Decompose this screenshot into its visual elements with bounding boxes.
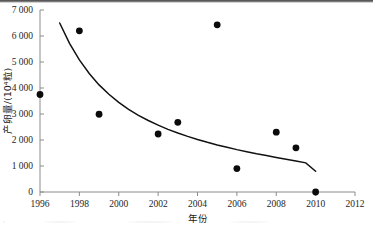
x-tick-label: 2006 bbox=[227, 199, 246, 209]
y-axis: 01 0002 0003 0004 0005 0006 0007 000 bbox=[12, 5, 44, 197]
x-axis-ticks bbox=[40, 192, 355, 196]
y-tick-label: 5 000 bbox=[12, 57, 34, 67]
fit-curve-group bbox=[60, 23, 316, 171]
chart-figure: 01 0002 0003 0004 0005 0006 0007 000 199… bbox=[0, 0, 373, 226]
y-axis-title: 产卵量/(10⁴粒) bbox=[2, 68, 13, 135]
x-tick-label: 1996 bbox=[31, 199, 50, 209]
data-point bbox=[76, 27, 83, 34]
y-tick-label: 2 000 bbox=[12, 135, 34, 145]
x-tick-label: 2010 bbox=[306, 199, 325, 209]
scatter-plot: 01 0002 0003 0004 0005 0006 0007 000 199… bbox=[0, 0, 373, 226]
x-tick-label: 2000 bbox=[109, 199, 128, 209]
y-tick-label: 6 000 bbox=[12, 31, 34, 41]
data-point bbox=[155, 131, 162, 138]
data-point bbox=[174, 119, 181, 126]
x-tick-label: 2004 bbox=[188, 199, 207, 209]
data-point bbox=[273, 129, 280, 136]
y-tick-label: 7 000 bbox=[12, 5, 34, 15]
fit-curve bbox=[60, 23, 316, 171]
x-tick-label: 2012 bbox=[346, 199, 365, 209]
data-point bbox=[233, 165, 240, 172]
y-tick-label: 1 000 bbox=[12, 161, 34, 171]
x-tick-label: 2002 bbox=[149, 199, 168, 209]
data-point bbox=[96, 111, 103, 118]
y-axis-tick-labels: 01 0002 0003 0004 0005 0006 0007 000 bbox=[12, 5, 34, 197]
data-point bbox=[37, 91, 44, 98]
data-point bbox=[214, 21, 221, 28]
x-tick-label: 2008 bbox=[267, 199, 286, 209]
data-point bbox=[293, 144, 300, 151]
y-tick-label: 4 000 bbox=[12, 83, 34, 93]
y-tick-label: 0 bbox=[28, 187, 33, 197]
x-axis-title: 年份 bbox=[188, 213, 208, 224]
x-tick-label: 1998 bbox=[70, 199, 89, 209]
data-point bbox=[312, 189, 319, 196]
y-axis-ticks bbox=[40, 10, 44, 192]
x-axis-tick-labels: 199619982000200220042006200820102012 bbox=[31, 199, 365, 209]
data-points-group bbox=[37, 21, 319, 195]
y-tick-label: 3 000 bbox=[12, 109, 34, 119]
